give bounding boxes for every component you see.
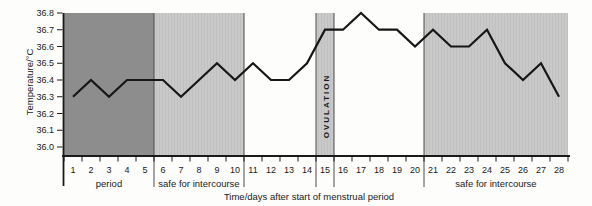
day-number: 20 (410, 165, 420, 175)
day-number: 7 (178, 165, 183, 175)
day-number: 2 (88, 165, 93, 175)
y-axis-title: Temperature/°C (24, 49, 35, 116)
temperature-cycle-chart: 36.036.136.236.336.436.536.636.736.81234… (0, 0, 592, 206)
day-number: 5 (142, 165, 147, 175)
day-number: 25 (500, 165, 510, 175)
y-tick-label: 36.7 (36, 25, 54, 35)
y-tick-label: 36.0 (36, 142, 54, 152)
y-tick-label: 36.6 (36, 42, 54, 52)
y-tick-label: 36.8 (36, 8, 54, 18)
day-number: 17 (356, 165, 366, 175)
day-number: 13 (284, 165, 294, 175)
day-number: 26 (518, 165, 528, 175)
y-tick-label: 36.3 (36, 92, 54, 102)
band-label-period: period (96, 178, 122, 189)
day-number: 11 (248, 165, 257, 175)
band-label-ovulation: OVULATION (322, 74, 331, 139)
day-number: 28 (554, 165, 564, 175)
day-number: 14 (302, 165, 312, 175)
y-tick-label: 36.5 (36, 58, 54, 68)
day-number: 24 (482, 165, 492, 175)
band-label-safe-2: safe for intercourse (455, 178, 536, 189)
y-tick-label: 36.1 (36, 125, 54, 135)
day-number: 16 (338, 165, 348, 175)
day-number: 15 (320, 165, 330, 175)
day-number: 6 (160, 165, 165, 175)
y-tick-label: 36.2 (36, 109, 54, 119)
chart-canvas: 36.036.136.236.336.436.536.636.736.81234… (0, 0, 592, 206)
day-number: 21 (428, 165, 438, 175)
day-number: 22 (446, 165, 456, 175)
day-number: 9 (214, 165, 219, 175)
day-number: 19 (392, 165, 402, 175)
day-number: 18 (374, 165, 384, 175)
day-number: 23 (464, 165, 474, 175)
day-number: 3 (106, 165, 111, 175)
day-number: 12 (266, 165, 276, 175)
band-label-safe-1: safe for intercourse (158, 178, 239, 189)
day-number: 8 (196, 165, 201, 175)
band-texture-safe-2 (424, 13, 568, 156)
day-number: 10 (230, 165, 240, 175)
day-number: 27 (536, 165, 546, 175)
day-number: 4 (124, 165, 129, 175)
day-number: 1 (70, 165, 75, 175)
x-axis-title: Time/days after start of menstrual perio… (224, 191, 394, 202)
band-period (64, 13, 154, 156)
y-tick-label: 36.4 (36, 75, 54, 85)
